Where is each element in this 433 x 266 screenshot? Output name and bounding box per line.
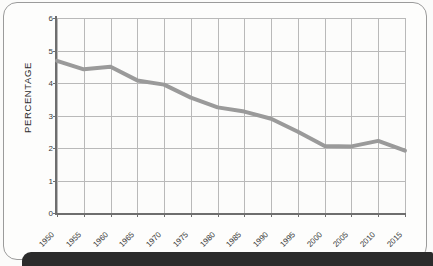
chart-screenshot: 0123456 19501955196019651970197519801985… (0, 0, 433, 266)
x-tick-mark (244, 213, 245, 217)
x-tick-mark (137, 213, 138, 217)
y-axis-title: PERCENTAGE (22, 38, 33, 158)
x-tick-mark (57, 213, 58, 217)
x-axis-line (55, 213, 406, 215)
x-tick-label: 1990 (251, 230, 270, 249)
line-chart: 0123456 19501955196019651970197519801985… (0, 0, 433, 266)
x-tick-mark (351, 213, 352, 217)
x-tick-mark (218, 213, 219, 217)
x-tick-label: 1960 (91, 230, 110, 249)
x-tick-mark (378, 213, 379, 217)
x-tick-mark (191, 213, 192, 217)
series-line (57, 18, 405, 213)
x-tick-label: 1985 (225, 230, 244, 249)
x-tick-label: 1975 (171, 230, 190, 249)
x-tick-label: 1955 (64, 230, 83, 249)
y-tick-label: 1 (37, 176, 53, 185)
y-tick-label: 2 (37, 144, 53, 153)
x-tick-label: 1980 (198, 230, 217, 249)
x-tick-label: 1950 (37, 230, 56, 249)
y-axis-tick-labels: 0123456 (33, 18, 53, 213)
gridline-vertical (405, 18, 406, 213)
caption-band (22, 252, 433, 266)
x-tick-label: 2000 (305, 230, 324, 249)
x-tick-mark (84, 213, 85, 217)
x-tick-mark (164, 213, 165, 217)
x-tick-mark (271, 213, 272, 217)
x-tick-mark (298, 213, 299, 217)
x-tick-mark (325, 213, 326, 217)
y-tick-label: 0 (37, 209, 53, 218)
y-tick-label: 5 (37, 46, 53, 55)
x-tick-label: 2010 (358, 230, 377, 249)
x-tick-label: 1965 (117, 230, 136, 249)
x-tick-mark (405, 213, 406, 217)
x-tick-label: 2015 (385, 230, 404, 249)
y-tick-label: 3 (37, 111, 53, 120)
x-tick-label: 2005 (332, 230, 351, 249)
x-tick-label: 1970 (144, 230, 163, 249)
y-tick-label: 6 (37, 14, 53, 23)
x-tick-label: 1995 (278, 230, 297, 249)
y-tick-label: 4 (37, 79, 53, 88)
x-tick-mark (111, 213, 112, 217)
